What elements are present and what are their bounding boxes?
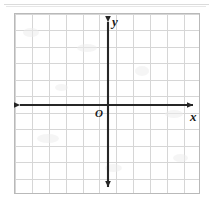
grid-area [14, 13, 200, 194]
y-axis-label: y [112, 15, 118, 28]
paper-speckle [37, 134, 59, 143]
paper-speckle [77, 44, 97, 52]
origin-label: O [95, 108, 103, 119]
paper-speckle [23, 28, 39, 37]
paper-speckle [135, 66, 149, 76]
page-top-rule-shadow [6, 6, 206, 7]
coordinate-plane-figure: y x O [0, 0, 215, 207]
x-axis-label: x [190, 110, 197, 123]
paper-speckle [173, 154, 188, 162]
paper-speckle [55, 84, 68, 91]
page-top-rule [4, 4, 209, 5]
paper-speckle [165, 110, 183, 118]
paper-speckle [105, 164, 122, 172]
